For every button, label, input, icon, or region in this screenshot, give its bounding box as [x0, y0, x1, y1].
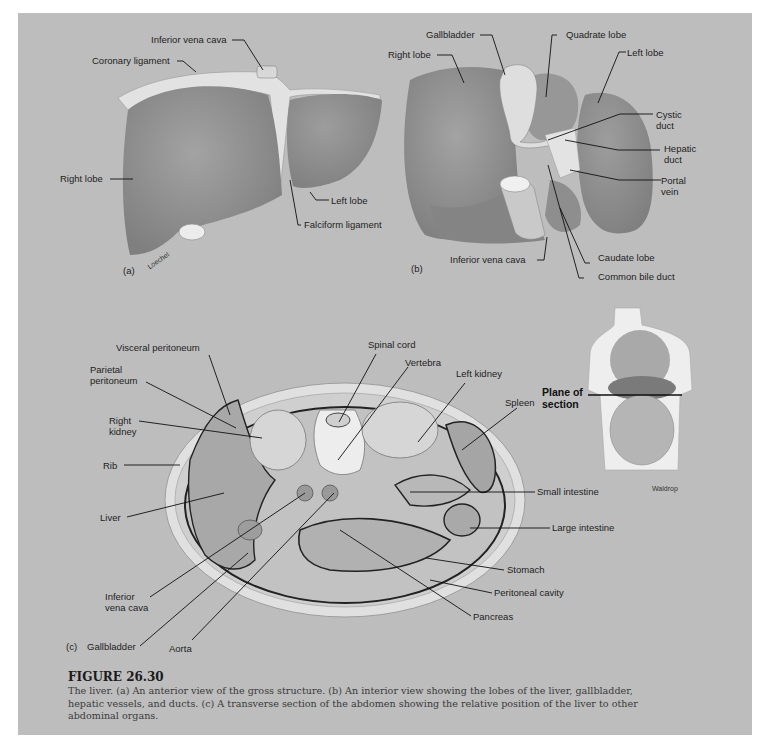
panel-a-tag: (a) [123, 265, 135, 276]
label-inferior-vena-cava-b: Inferior vena cava [450, 254, 526, 265]
label-left-kidney: Left kidney [456, 368, 502, 379]
label-inferior-vena-cava-c: Inferiorvena cava [105, 591, 148, 613]
label-coronary-ligament: Coronary ligament [92, 55, 170, 66]
label-stomach: Stomach [507, 564, 545, 575]
label-spinal-cord: Spinal cord [368, 339, 416, 350]
caption-line-2: hepatic vessels, and ducts. (c) A transv… [68, 698, 708, 711]
label-gallbladder-c: Gallbladder [87, 641, 136, 652]
label-spleen: Spleen [505, 397, 535, 408]
label-ivc-line1: Inferior [105, 591, 135, 602]
label-parietal-peritoneum: Parietalperitoneum [90, 364, 138, 386]
label-common-bile-duct: Common bile duct [598, 271, 675, 282]
label-aorta: Aorta [169, 643, 192, 654]
torso-inset-drawing [588, 308, 692, 470]
label-portal-vein: Portalvein [661, 175, 686, 197]
caption-line-3: abdominal organs. [68, 710, 708, 723]
label-right-kidney-line1: Right [109, 415, 131, 426]
panel-b-tag: (b) [411, 263, 423, 274]
label-cystic-duct-line1: Cystic [656, 109, 682, 120]
figure-caption: The liver. (a) An anterior view of the g… [68, 685, 708, 723]
panel-c-tag: (c) [66, 641, 77, 652]
label-pancreas: Pancreas [473, 611, 513, 622]
label-right-kidney-line2: kidney [109, 426, 136, 437]
label-rib: Rib [103, 460, 117, 471]
label-ivc-line2: vena cava [105, 602, 148, 613]
label-right-lobe-b: Right lobe [388, 49, 431, 60]
label-vertebra: Vertebra [405, 357, 441, 368]
caption-line-1: The liver. (a) An anterior view of the g… [68, 685, 708, 698]
label-plane-of-section: Plane ofsection [542, 386, 583, 410]
label-portal-vein-line2: vein [661, 186, 678, 197]
label-portal-vein-line1: Portal [661, 175, 686, 186]
label-left-lobe-b: Left lobe [627, 47, 663, 58]
label-parietal-peritoneum-line1: Parietal [90, 364, 122, 375]
label-inferior-vena-cava-a: Inferior vena cava [151, 34, 227, 45]
label-peritoneal-cavity: Peritoneal cavity [494, 587, 564, 598]
label-small-intestine: Small intestine [537, 486, 599, 497]
label-hepatic-duct: Hepaticduct [664, 143, 696, 165]
label-plane-line1: Plane of [542, 386, 583, 398]
label-right-kidney: Rightkidney [109, 415, 136, 437]
label-quadrate-lobe: Quadrate lobe [566, 29, 626, 40]
transverse-section-drawing [165, 383, 525, 617]
label-plane-line2: section [542, 398, 579, 410]
label-cystic-duct-line2: duct [656, 120, 674, 131]
label-cystic-duct: Cysticduct [656, 109, 682, 131]
label-hepatic-duct-line2: duct [664, 154, 682, 165]
label-left-lobe-a: Left lobe [331, 195, 367, 206]
label-parietal-peritoneum-line2: peritoneum [90, 375, 138, 386]
label-right-lobe-a: Right lobe [60, 173, 103, 184]
figure-number: FIGURE 26.30 [68, 670, 164, 684]
label-falciform-ligament: Falciform ligament [304, 219, 382, 230]
artist-credit-waldrop: Waldrop [652, 483, 678, 494]
label-liver: Liver [100, 512, 121, 523]
label-caudate-lobe: Caudate lobe [598, 252, 655, 263]
label-visceral-peritoneum: Visceral peritoneum [116, 342, 200, 353]
liver-inferior-drawing [404, 65, 653, 244]
label-hepatic-duct-line1: Hepatic [664, 143, 696, 154]
label-gallbladder-b: Gallbladder [426, 29, 475, 40]
label-large-intestine: Large intestine [552, 522, 614, 533]
